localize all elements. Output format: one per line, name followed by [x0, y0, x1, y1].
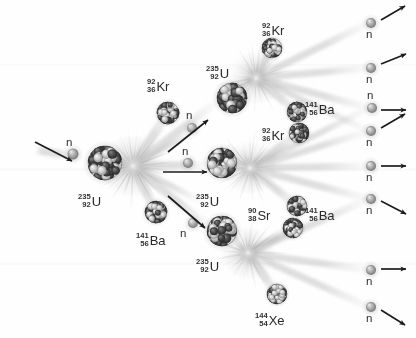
element-symbol: Kr — [271, 129, 284, 142]
neutron-label-n-out-2: n — [366, 74, 372, 86]
element-symbol: U — [92, 195, 101, 208]
isotope-label-u235-gen2-mid: 23592U — [196, 193, 219, 209]
atomic-number: 92 — [210, 73, 218, 81]
isotope-label-sr90-gen2-bot: 9038Sr — [248, 207, 270, 223]
atomic-number: 56 — [140, 240, 148, 248]
isotope-numbers: 9236 — [262, 127, 270, 143]
element-symbol: U — [220, 67, 229, 80]
neutron-label-n-incident: n — [66, 137, 72, 149]
element-symbol: Kr — [156, 80, 169, 93]
atomic-number: 92 — [82, 201, 90, 209]
isotope-numbers: 14156 — [136, 232, 149, 248]
element-symbol: Ba — [150, 234, 166, 247]
element-symbol: Ba — [319, 103, 335, 116]
isotope-numbers: 23592 — [78, 193, 91, 209]
atomic-number: 92 — [200, 266, 208, 274]
element-symbol: Xe — [269, 314, 285, 327]
atomic-number: 54 — [259, 320, 267, 328]
isotope-label-ba141-gen2-top: 14156Ba — [305, 101, 335, 117]
neutron-label-n-out-1: n — [366, 29, 372, 41]
isotope-numbers: 14156 — [305, 207, 318, 223]
fission-chain-reaction-diagram: 23592U9236Kr14156Ba23592U23592U23592U923… — [0, 0, 416, 338]
neutron-label-n-out-6: n — [366, 205, 372, 217]
neutron-label-n-out-5: n — [366, 172, 372, 184]
element-symbol: U — [210, 260, 219, 273]
isotope-label-xe144-gen2-bot: 14454Xe — [255, 312, 285, 328]
arrow-out-2 — [381, 54, 406, 64]
neutron-label-n-gen1-top: n — [186, 110, 192, 122]
isotope-label-u235-gen2-top: 23592U — [206, 65, 229, 81]
isotope-label-kr92-gen1: 9236Kr — [147, 78, 169, 94]
arrow-out-6 — [381, 201, 406, 214]
isotope-label-u235-gen1: 23592U — [78, 193, 101, 209]
motion-arrow-group — [35, 6, 406, 325]
atomic-number: 92 — [200, 201, 208, 209]
element-symbol: U — [210, 195, 219, 208]
isotope-label-u235-gen2-bot: 23592U — [196, 258, 219, 274]
neutron-label-n-out-4: n — [366, 137, 372, 149]
isotope-numbers: 9236 — [147, 78, 155, 94]
isotope-numbers: 23592 — [196, 258, 209, 274]
atomic-number: 36 — [262, 135, 270, 143]
atomic-number: 36 — [262, 30, 270, 38]
isotope-label-kr92-gen2-mid: 9236Kr — [262, 127, 284, 143]
isotope-label-kr92-gen2-top: 9236Kr — [262, 22, 284, 38]
neutron-label-n-gen1-mid: n — [182, 146, 188, 158]
atomic-number: 36 — [147, 86, 155, 94]
arrow-out-8 — [381, 310, 405, 325]
isotope-numbers: 23592 — [196, 193, 209, 209]
diagram-vector-layer — [0, 0, 416, 338]
neutron-label-n-out-7: n — [366, 276, 372, 288]
isotope-numbers: 9038 — [248, 207, 256, 223]
atomic-number: 56 — [309, 109, 317, 117]
element-symbol: Kr — [271, 24, 284, 37]
isotope-label-ba141-gen2-mid: 14156Ba — [305, 207, 335, 223]
atomic-number: 38 — [248, 215, 256, 223]
isotope-numbers: 9236 — [262, 22, 270, 38]
isotope-numbers: 14156 — [305, 101, 318, 117]
isotope-label-ba141-gen1: 14156Ba — [136, 232, 166, 248]
arrow-out-4 — [381, 114, 405, 128]
element-symbol: Ba — [319, 209, 335, 222]
isotope-numbers: 14454 — [255, 312, 268, 328]
neutron-label-n-gen1-bot: n — [180, 228, 186, 240]
neutron-label-n-out-3: n — [367, 90, 373, 102]
arrow-out-1 — [381, 6, 405, 20]
element-symbol: Sr — [257, 209, 270, 222]
neutron-label-n-out-8: n — [366, 313, 372, 325]
isotope-numbers: 23592 — [206, 65, 219, 81]
atomic-number: 56 — [309, 215, 317, 223]
